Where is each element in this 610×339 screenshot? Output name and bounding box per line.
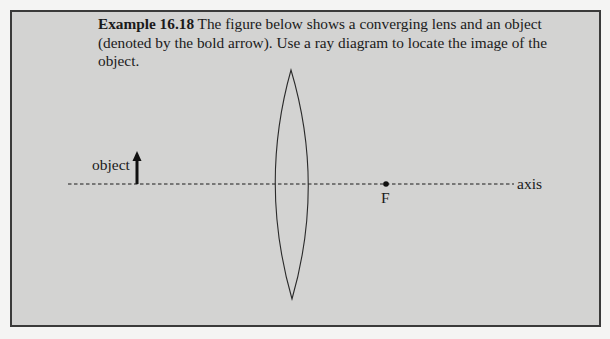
object-arrow-head-icon <box>133 151 142 161</box>
axis-label: axis <box>517 175 542 192</box>
ray-diagram: axis object F <box>0 0 610 339</box>
focal-point-label: F <box>381 189 390 206</box>
focal-point-dot <box>383 181 389 187</box>
object-label: object <box>92 156 131 173</box>
